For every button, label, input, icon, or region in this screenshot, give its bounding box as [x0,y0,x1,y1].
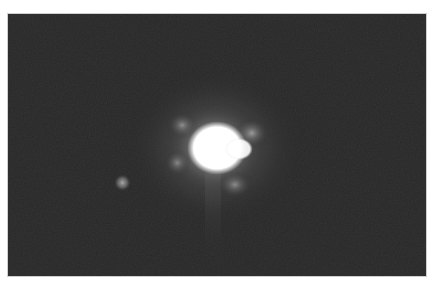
star-field [8,14,426,276]
companion-star [113,174,131,192]
astronomical-image: Grayscale telescope image of a bright sa… [7,13,427,277]
